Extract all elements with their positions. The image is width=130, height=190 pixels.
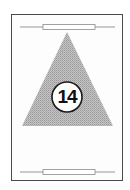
top-bar-icon [20,25,115,30]
card-number: 14 [52,86,82,108]
bottom-bar-icon [20,170,115,175]
